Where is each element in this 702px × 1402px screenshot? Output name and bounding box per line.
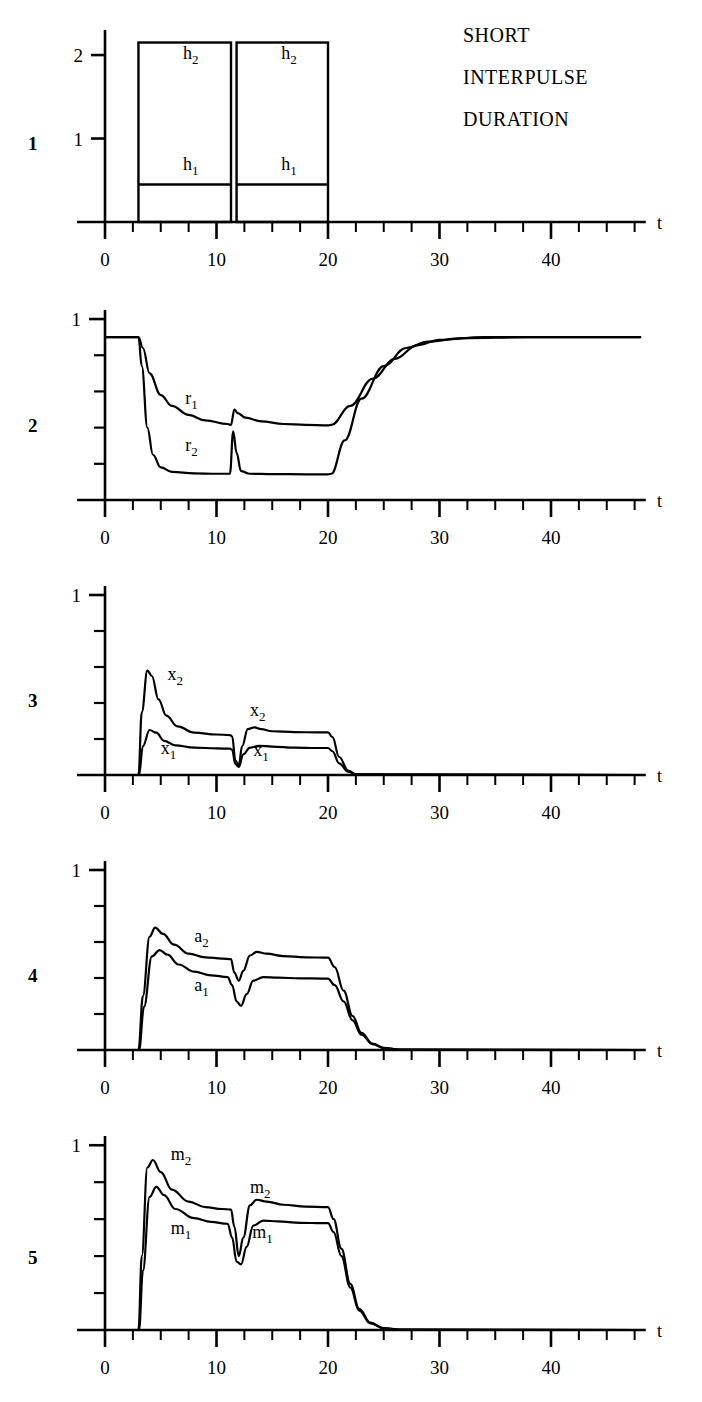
- title-line-2: INTERPULSE: [463, 66, 588, 89]
- x-tick-label: 40: [542, 249, 561, 270]
- x-tick-label: 0: [100, 1077, 110, 1098]
- y-tick-label: 1: [72, 860, 82, 881]
- x-tick-label: 10: [207, 802, 226, 823]
- x-tick-label: 20: [319, 527, 338, 548]
- curve-label: a2: [194, 926, 209, 950]
- panel-number-2: 2: [28, 415, 38, 436]
- curve-label: h1: [281, 154, 297, 178]
- panel-2: 010203040t1r1r22: [28, 309, 662, 548]
- y-tick-label: 1: [74, 129, 84, 150]
- y-tick-label: 1: [72, 585, 82, 606]
- panel-number-4: 4: [28, 965, 38, 986]
- figure-title: SHORTINTERPULSEDURATION: [463, 24, 588, 150]
- y-tick-label: 1: [72, 1135, 82, 1156]
- x-axis-label: t: [657, 213, 662, 233]
- x-tick-label: 0: [100, 1357, 110, 1378]
- panel-3: 010203040t1x2x1x2x13: [28, 585, 662, 823]
- figure-canvas: 010203040t12h2h2h1h11010203040t1r1r22010…: [0, 0, 702, 1402]
- x-tick-label: 10: [207, 1357, 226, 1378]
- x-tick-label: 40: [542, 527, 561, 548]
- x-tick-label: 20: [319, 802, 338, 823]
- curve-x2: [105, 671, 640, 775]
- curve-m2: [105, 1160, 640, 1330]
- curve-label: x1: [161, 738, 177, 762]
- x-tick-label: 40: [542, 802, 561, 823]
- curve-a2: [105, 928, 640, 1050]
- curve-a1: [105, 950, 640, 1050]
- panel-number-3: 3: [28, 690, 38, 711]
- curve-label: x2: [167, 664, 183, 688]
- curve-label: x2: [250, 700, 266, 724]
- curve-label: h1: [183, 154, 199, 178]
- curve-label: a1: [194, 975, 209, 999]
- pulse-box: [138, 43, 231, 222]
- curve-label: h2: [183, 43, 199, 67]
- x-axis-label: t: [657, 491, 662, 511]
- curve-label: m2: [171, 1144, 192, 1168]
- curve-label: r2: [185, 435, 198, 459]
- panel-number-5: 5: [28, 1247, 38, 1268]
- x-axis-label: t: [657, 1041, 662, 1061]
- pulse-box: [237, 43, 328, 222]
- x-tick-label: 40: [542, 1357, 561, 1378]
- curve-label: r1: [185, 388, 198, 412]
- x-tick-label: 0: [100, 527, 110, 548]
- title-line-3: DURATION: [463, 108, 588, 131]
- x-tick-label: 0: [100, 802, 110, 823]
- x-tick-label: 30: [430, 249, 449, 270]
- title-line-1: SHORT: [463, 24, 588, 47]
- curve-x1: [105, 730, 640, 775]
- x-tick-label: 30: [430, 1357, 449, 1378]
- x-tick-label: 10: [207, 249, 226, 270]
- curve-label: x1: [253, 740, 268, 764]
- x-axis-label: t: [657, 1321, 662, 1341]
- curve-label: h2: [281, 43, 297, 67]
- panel-5: 010203040t1m2m1m2m15: [28, 1135, 662, 1378]
- x-tick-label: 30: [430, 802, 449, 823]
- curve-label: m1: [252, 1222, 273, 1246]
- x-tick-label: 40: [542, 1077, 561, 1098]
- y-tick-label: 2: [74, 45, 84, 66]
- curve-m1: [105, 1187, 640, 1330]
- x-tick-label: 20: [319, 1357, 338, 1378]
- panel-4: 010203040t1a2a14: [28, 860, 662, 1098]
- curve-label: m1: [171, 1218, 192, 1242]
- x-tick-label: 10: [207, 527, 226, 548]
- x-axis-label: t: [657, 766, 662, 786]
- x-tick-label: 30: [430, 527, 449, 548]
- x-tick-label: 20: [319, 1077, 338, 1098]
- y-tick-label: 1: [72, 309, 82, 330]
- x-tick-label: 20: [319, 249, 338, 270]
- curve-label: m2: [250, 1177, 271, 1201]
- x-tick-label: 30: [430, 1077, 449, 1098]
- x-tick-label: 10: [207, 1077, 226, 1098]
- x-tick-label: 0: [100, 249, 110, 270]
- panel-number-1: 1: [28, 133, 38, 154]
